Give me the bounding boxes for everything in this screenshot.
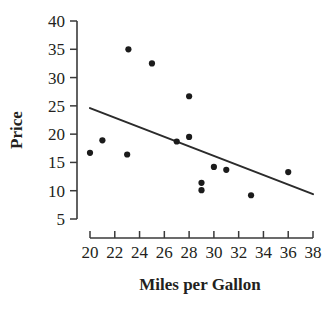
data-point (186, 93, 192, 99)
data-point (124, 151, 130, 157)
y-tick-label: 5 (57, 210, 66, 229)
data-point (149, 60, 155, 66)
data-points (87, 46, 291, 198)
y-axis-title: Price (7, 111, 26, 149)
x-tick-label: 24 (131, 243, 149, 262)
x-axis: 20222426283032343638 (82, 231, 322, 262)
data-point (125, 46, 131, 52)
y-tick-label: 20 (48, 125, 65, 144)
data-point (198, 180, 204, 186)
x-tick-label: 20 (82, 243, 99, 262)
y-tick-label: 25 (48, 97, 65, 116)
x-tick-label: 30 (205, 243, 222, 262)
plot-canvas: 510152025303540 20222426283032343638 Pri… (0, 0, 332, 310)
x-axis-title: Miles per Gallon (139, 275, 261, 294)
data-point (211, 164, 217, 170)
data-point (99, 137, 105, 143)
x-tick-label: 32 (230, 243, 247, 262)
x-tick-label: 38 (305, 243, 322, 262)
data-point (248, 192, 254, 198)
data-point (174, 138, 180, 144)
y-tick-label: 40 (48, 12, 65, 31)
y-axis: 510152025303540 (48, 12, 77, 229)
y-tick-label: 10 (48, 182, 65, 201)
x-tick-label: 34 (255, 243, 273, 262)
x-tick-label: 36 (280, 243, 297, 262)
x-tick-label: 22 (106, 243, 123, 262)
data-point (186, 134, 192, 140)
x-tick-label: 26 (156, 243, 173, 262)
y-tick-label: 15 (48, 153, 65, 172)
scatter-plot-figure: 510152025303540 20222426283032343638 Pri… (0, 0, 332, 310)
y-tick-label: 35 (48, 40, 65, 59)
data-point (198, 187, 204, 193)
y-tick-label: 30 (48, 69, 65, 88)
data-point (223, 167, 229, 173)
data-point (87, 150, 93, 156)
x-tick-label: 28 (181, 243, 198, 262)
data-point (285, 169, 291, 175)
